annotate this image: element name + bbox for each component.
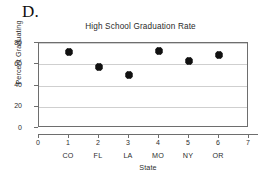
data-point-ny xyxy=(185,56,193,64)
data-point-co xyxy=(65,48,73,56)
x-tick-mark-2 xyxy=(98,134,99,138)
data-point-mo xyxy=(155,47,163,55)
gridline-y-40 xyxy=(39,86,247,87)
x-tick-mark-7 xyxy=(248,134,249,138)
y-tick-mark-0 xyxy=(34,127,38,128)
y-tick-mark-20 xyxy=(34,106,38,107)
figure-panel: D. High School Graduation Rate Percent G… xyxy=(0,0,273,175)
x-tick-mark-6 xyxy=(218,134,219,138)
data-point-fl xyxy=(95,63,103,71)
x-axis-label: State xyxy=(38,163,258,172)
y-tick-label-80: 80 xyxy=(0,39,22,46)
x-tick-label-0: 0 xyxy=(28,139,48,146)
x-category-label-or: OR xyxy=(203,151,233,160)
y-tick-label-0: 0 xyxy=(0,124,22,131)
x-tick-label-7: 7 xyxy=(238,139,258,146)
gridline-y-80 xyxy=(39,43,247,44)
y-tick-mark-80 xyxy=(34,42,38,43)
x-tick-label-6: 6 xyxy=(208,139,228,146)
y-tick-label-20: 20 xyxy=(0,102,22,109)
y-tick-label-40: 40 xyxy=(0,81,22,88)
part-label: D. xyxy=(22,2,39,22)
x-tick-label-4: 4 xyxy=(148,139,168,146)
x-tick-mark-3 xyxy=(128,134,129,138)
data-point-or xyxy=(215,50,223,58)
x-tick-label-2: 2 xyxy=(88,139,108,146)
x-tick-label-5: 5 xyxy=(178,139,198,146)
x-tick-mark-0 xyxy=(38,134,39,138)
x-tick-mark-4 xyxy=(158,134,159,138)
x-axis-line xyxy=(38,134,258,135)
x-tick-label-3: 3 xyxy=(118,139,138,146)
x-category-label-co: CO xyxy=(53,151,83,160)
x-tick-mark-5 xyxy=(188,134,189,138)
y-tick-mark-40 xyxy=(34,85,38,86)
x-category-label-la: LA xyxy=(113,151,143,160)
gridline-y-20 xyxy=(39,107,247,108)
x-tick-mark-1 xyxy=(68,134,69,138)
data-point-la xyxy=(125,71,133,79)
plot-area xyxy=(38,42,248,127)
x-category-label-fl: FL xyxy=(83,151,113,160)
x-tick-label-1: 1 xyxy=(58,139,78,146)
chart-title: High School Graduation Rate xyxy=(33,22,248,31)
x-category-label-mo: MO xyxy=(143,151,173,160)
gridline-y-60 xyxy=(39,64,247,65)
y-tick-label-60: 60 xyxy=(0,60,22,67)
y-tick-mark-60 xyxy=(34,63,38,64)
x-category-label-ny: NY xyxy=(173,151,203,160)
